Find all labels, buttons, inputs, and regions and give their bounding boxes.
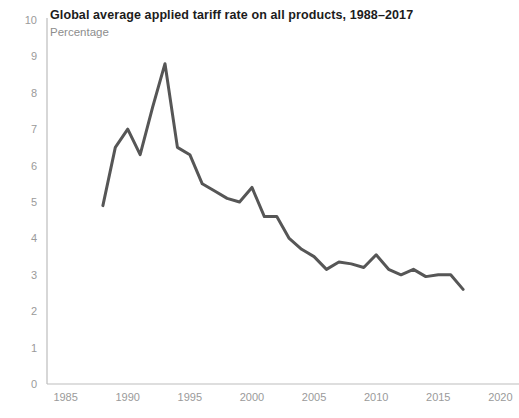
- y-tick-label: 1: [31, 342, 37, 354]
- y-tick-label: 2: [31, 305, 37, 317]
- x-tick-label: 1985: [53, 391, 77, 403]
- x-axis-tick-labels: 19851990199520002005201020152020: [53, 391, 512, 403]
- x-tick-label: 1995: [178, 391, 202, 403]
- y-tick-label: 8: [31, 87, 37, 99]
- axis-lines: [47, 18, 519, 384]
- chart-page: 012345678910 198519901995200020052010201…: [0, 0, 519, 418]
- x-tick-label: 2020: [488, 391, 512, 403]
- y-tick-label: 7: [31, 123, 37, 135]
- y-tick-label: 5: [31, 196, 37, 208]
- y-tick-label: 9: [31, 50, 37, 62]
- x-tick-label: 2015: [426, 391, 450, 403]
- tariff-rate-line: [103, 64, 463, 290]
- x-tick-label: 2010: [364, 391, 388, 403]
- y-tick-label: 4: [31, 232, 37, 244]
- y-tick-label: 10: [25, 14, 37, 26]
- y-axis-tick-labels: 012345678910: [25, 14, 37, 390]
- data-line: [103, 64, 463, 290]
- x-tick-label: 1990: [115, 391, 139, 403]
- y-tick-label: 3: [31, 269, 37, 281]
- y-tick-label: 0: [31, 378, 37, 390]
- x-tick-label: 2005: [302, 391, 326, 403]
- tariff-line-chart: 012345678910 198519901995200020052010201…: [0, 0, 519, 418]
- y-tick-label: 6: [31, 160, 37, 172]
- x-tick-label: 2000: [240, 391, 264, 403]
